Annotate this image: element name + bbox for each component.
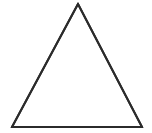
canvas-background [0, 0, 152, 133]
triangle-drawing [0, 0, 152, 133]
figure-canvas: Triangle [0, 0, 152, 133]
